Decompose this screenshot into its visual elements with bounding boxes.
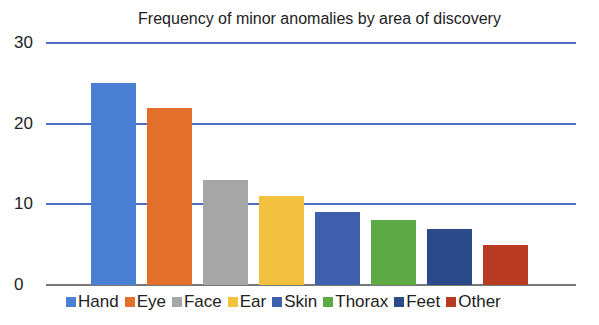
bar-skin: [315, 212, 360, 285]
bar-eye: [147, 108, 192, 285]
legend-swatch: [446, 297, 456, 307]
legend-label: Thorax: [335, 292, 388, 312]
y-tick-label: 30: [14, 34, 46, 52]
legend-item-other: Other: [446, 292, 501, 312]
bar-feet: [427, 229, 472, 285]
legend-swatch: [228, 297, 238, 307]
legend-item-face: Face: [172, 292, 222, 312]
legend-swatch: [125, 297, 135, 307]
legend-item-skin: Skin: [272, 292, 317, 312]
legend-swatch: [394, 297, 404, 307]
legend-swatch: [172, 297, 182, 307]
legend-label: Feet: [406, 292, 440, 312]
legend-item-thorax: Thorax: [323, 292, 388, 312]
legend-label: Skin: [284, 292, 317, 312]
legend-label: Eye: [137, 292, 166, 312]
chart-title: Frequency of minor anomalies by area of …: [0, 10, 599, 28]
bar-hand: [91, 83, 136, 285]
bar-ear: [259, 196, 304, 285]
gridline: [46, 42, 576, 44]
legend-item-hand: Hand: [66, 292, 119, 312]
legend-item-ear: Ear: [228, 292, 266, 312]
legend-swatch: [66, 297, 76, 307]
bar-face: [203, 180, 248, 285]
bar-other: [483, 245, 528, 285]
y-tick-label: 10: [14, 195, 46, 213]
legend-swatch: [272, 297, 282, 307]
legend-label: Hand: [78, 292, 119, 312]
y-tick-label: 20: [14, 115, 46, 133]
legend: HandEyeFaceEarSkinThoraxFeetOther: [66, 292, 507, 312]
legend-label: Other: [458, 292, 501, 312]
bar-thorax: [371, 220, 416, 285]
legend-item-feet: Feet: [394, 292, 440, 312]
legend-label: Face: [184, 292, 222, 312]
legend-item-eye: Eye: [125, 292, 166, 312]
y-tick-label: 0: [14, 276, 46, 294]
legend-label: Ear: [240, 292, 266, 312]
legend-swatch: [323, 297, 333, 307]
